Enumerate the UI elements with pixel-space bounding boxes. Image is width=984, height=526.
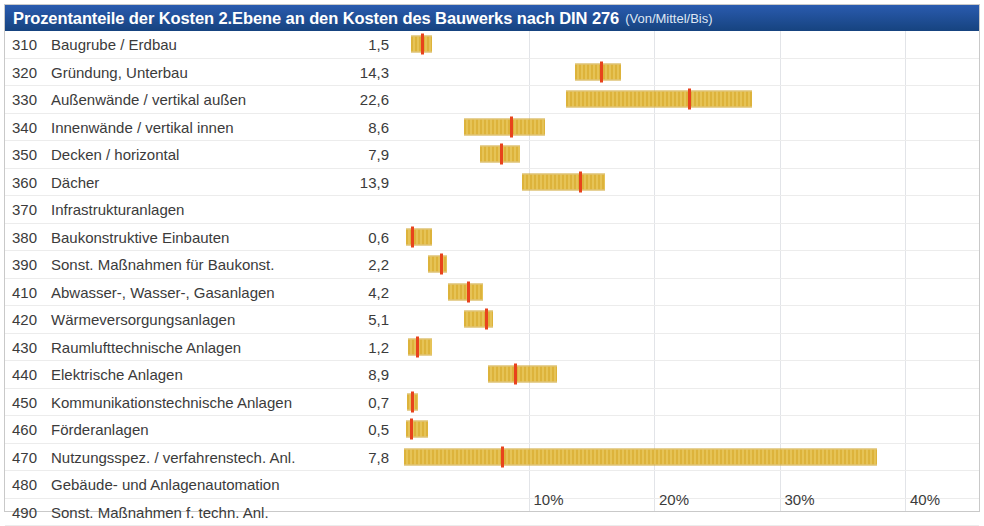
table-row[interactable]: 410Abwasser-, Wasser-, Gasanlagen4,2	[5, 279, 979, 307]
mean-marker	[579, 171, 582, 192]
row-label: Sonst. Maßnahmen für Baukonst.	[51, 256, 274, 273]
row-label: Elektrische Anlagen	[51, 366, 183, 383]
row-code: 470	[12, 448, 37, 465]
range-bar	[406, 228, 432, 245]
chart-title-bar: Prozentanteile der Kosten 2.Ebene an den…	[5, 5, 979, 31]
mean-marker	[514, 364, 517, 385]
row-value: 7,9	[329, 146, 389, 163]
row-value: 0,6	[329, 228, 389, 245]
row-code: 360	[12, 173, 37, 190]
chart-subtitle: (Von/Mittel/Bis)	[625, 11, 712, 26]
row-value: 14,3	[329, 63, 389, 80]
range-bar	[522, 173, 605, 190]
row-value: 8,6	[329, 118, 389, 135]
row-code: 350	[12, 146, 37, 163]
row-label: Wärmeversorgungsanlagen	[51, 311, 235, 328]
row-value: 2,2	[329, 256, 389, 273]
row-value: 7,8	[329, 448, 389, 465]
range-bar	[464, 311, 493, 328]
table-row[interactable]: 310Baugrube / Erdbau1,5	[5, 31, 979, 59]
mean-marker	[410, 419, 413, 440]
table-row[interactable]: 460Förderanlagen0,5	[5, 416, 979, 444]
row-value: 22,6	[329, 91, 389, 108]
mean-marker	[467, 281, 470, 302]
table-row[interactable]: 370Infrastrukturanlagen	[5, 196, 979, 224]
row-code: 410	[12, 283, 37, 300]
chart-plot-area: 310Baugrube / Erdbau1,5320Gründung, Unte…	[5, 31, 979, 511]
mean-marker	[421, 34, 424, 55]
row-code: 330	[12, 91, 37, 108]
row-value: 8,9	[329, 366, 389, 383]
mean-marker	[688, 89, 691, 110]
mean-marker	[416, 336, 419, 357]
row-code: 310	[12, 36, 37, 53]
row-code: 430	[12, 338, 37, 355]
mean-marker	[411, 226, 414, 247]
range-bar	[408, 338, 432, 355]
axis-tick-label: 20%	[659, 491, 689, 508]
range-bar	[575, 63, 621, 80]
row-label: Baugrube / Erdbau	[51, 36, 177, 53]
row-code: 380	[12, 228, 37, 245]
row-label: Infrastrukturanlagen	[51, 201, 184, 218]
chart-frame: Prozentanteile der Kosten 2.Ebene an den…	[4, 4, 980, 512]
mean-marker	[600, 61, 603, 82]
row-label: Gründung, Unterbau	[51, 63, 188, 80]
row-label: Innenwände / vertikal innen	[51, 118, 234, 135]
axis-tick-label: 40%	[910, 491, 940, 508]
row-label: Förderanlagen	[51, 421, 149, 438]
table-row[interactable]: 350Decken / horizontal7,9	[5, 141, 979, 169]
row-label: Dächer	[51, 173, 99, 190]
row-value: 0,7	[329, 393, 389, 410]
table-row[interactable]: 320Gründung, Unterbau14,3	[5, 59, 979, 87]
row-label: Nutzungsspez. / verfahrenstech. Anl.	[51, 448, 295, 465]
row-value: 5,1	[329, 311, 389, 328]
row-label: Baukonstruktive Einbauten	[51, 228, 229, 245]
table-row[interactable]: 330Außenwände / vertikal außen22,6	[5, 86, 979, 114]
row-value: 13,9	[329, 173, 389, 190]
row-code: 420	[12, 311, 37, 328]
row-label: Decken / horizontal	[51, 146, 179, 163]
table-row[interactable]: 470Nutzungsspez. / verfahrenstech. Anl.7…	[5, 444, 979, 472]
row-code: 460	[12, 421, 37, 438]
axis-tick-label: 10%	[534, 491, 564, 508]
row-label: Kommunikationstechnische Anlagen	[51, 393, 292, 410]
row-code: 440	[12, 366, 37, 383]
table-row[interactable]: 430Raumlufttechnische Anlagen1,2	[5, 334, 979, 362]
row-code: 340	[12, 118, 37, 135]
range-bar	[464, 118, 544, 135]
table-row[interactable]: 450Kommunikationstechnische Anlagen0,7	[5, 389, 979, 417]
row-label: Raumlufttechnische Anlagen	[51, 338, 241, 355]
mean-marker	[500, 144, 503, 165]
row-code: 370	[12, 201, 37, 218]
row-value: 4,2	[329, 283, 389, 300]
mean-marker	[411, 391, 414, 412]
row-value: 0,5	[329, 421, 389, 438]
table-row[interactable]: 340Innenwände / vertikal innen8,6	[5, 114, 979, 142]
range-bar	[428, 256, 447, 273]
range-bar	[404, 448, 877, 465]
table-row[interactable]: 390Sonst. Maßnahmen für Baukonst.2,2	[5, 251, 979, 279]
range-bar	[566, 91, 752, 108]
x-axis: 10%20%30%40%	[5, 484, 979, 512]
table-row[interactable]: 380Baukonstruktive Einbauten0,6	[5, 224, 979, 252]
row-value: 1,5	[329, 36, 389, 53]
mean-marker	[510, 116, 513, 137]
row-value: 1,2	[329, 338, 389, 355]
mean-marker	[485, 309, 488, 330]
row-code: 390	[12, 256, 37, 273]
table-row[interactable]: 420Wärmeversorgungsanlagen5,1	[5, 306, 979, 334]
chart-title: Prozentanteile der Kosten 2.Ebene an den…	[13, 9, 619, 28]
row-code: 450	[12, 393, 37, 410]
table-row[interactable]: 440Elektrische Anlagen8,9	[5, 361, 979, 389]
table-row[interactable]: 360Dächer13,9	[5, 169, 979, 197]
axis-tick-label: 30%	[785, 491, 815, 508]
range-bar	[448, 283, 483, 300]
mean-marker	[440, 254, 443, 275]
range-bar	[488, 366, 557, 383]
mean-marker	[501, 446, 504, 467]
row-label: Abwasser-, Wasser-, Gasanlagen	[51, 283, 275, 300]
row-code: 320	[12, 63, 37, 80]
row-label: Außenwände / vertikal außen	[51, 91, 246, 108]
